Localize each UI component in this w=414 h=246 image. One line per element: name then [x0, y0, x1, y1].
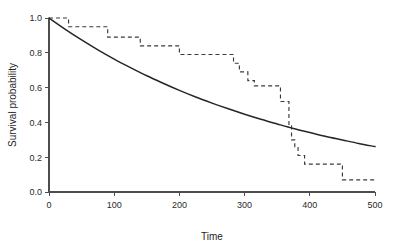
x-axis-title: Time [201, 231, 223, 242]
survival-plot-figure: 0.00.20.40.60.81.0 0100200300400500 Time… [0, 0, 414, 246]
x-tick-marks [49, 192, 375, 196]
x-tick-label: 500 [367, 200, 382, 210]
y-tick-label: 0.6 [29, 83, 42, 93]
y-tick-label: 1.0 [29, 13, 42, 23]
y-tick-label: 0.0 [29, 187, 42, 197]
y-tick-labels: 0.00.20.40.60.81.0 [29, 13, 42, 197]
kaplan-meier-step-curve [49, 18, 375, 180]
y-tick-label: 0.8 [29, 48, 42, 58]
plot-canvas: 0.00.20.40.60.81.0 0100200300400500 Time… [0, 0, 414, 246]
data-series-group [49, 18, 375, 180]
x-tick-labels: 0100200300400500 [46, 200, 382, 210]
y-axis-group: 0.00.20.40.60.81.0 [29, 13, 49, 197]
x-axis-group: 0100200300400500 [46, 192, 382, 210]
y-tick-label: 0.2 [29, 153, 42, 163]
y-axis-title: Survival probability [7, 63, 18, 147]
x-tick-label: 200 [172, 200, 187, 210]
y-tick-marks [45, 18, 49, 192]
x-tick-label: 400 [302, 200, 317, 210]
x-tick-label: 100 [107, 200, 122, 210]
x-tick-label: 300 [237, 200, 252, 210]
fitted-exponential-curve [49, 18, 375, 147]
y-tick-label: 0.4 [29, 118, 42, 128]
x-tick-label: 0 [46, 200, 51, 210]
